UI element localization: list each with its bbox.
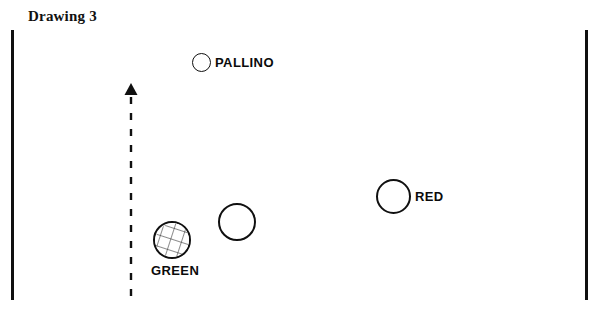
ball-unlabeled — [218, 203, 256, 241]
ball-label-red: RED — [415, 189, 444, 204]
drawing-canvas: Drawing 3 PALLINO — [0, 0, 600, 310]
ball-pallino — [192, 53, 211, 72]
left-court-sideline — [11, 30, 14, 300]
right-court-sideline — [585, 30, 588, 300]
ball-label-green: GREEN — [151, 263, 199, 278]
ball-green — [153, 221, 191, 259]
ball-label-pallino: PALLINO — [215, 55, 274, 70]
direction-of-play-arrow — [118, 78, 146, 302]
page-title: Drawing 3 — [28, 8, 97, 25]
ball-red — [376, 179, 411, 214]
